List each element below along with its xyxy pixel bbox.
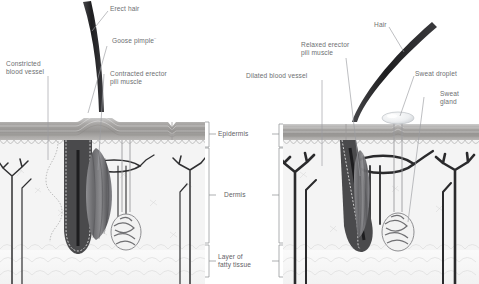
label-sweat-gland-line1: Sweat xyxy=(440,90,459,98)
bracket-dermis-right xyxy=(272,148,283,243)
leader-hair xyxy=(389,27,404,52)
label-goose-pimple: Goose pimple¨ xyxy=(112,37,156,45)
label-relaxed-erector-pili-muscle-line1: Relaxed erector xyxy=(301,41,349,49)
label-dilated-blood-vessel: Dilated blood vessel xyxy=(246,72,307,80)
bracket-fat-left xyxy=(205,245,216,277)
label-epidermis: Epidermis xyxy=(218,130,248,138)
label-constricted-blood-vessel-line1: Constricted xyxy=(6,60,41,68)
label-relaxed-erector-pili-muscle-line2: pili muscle xyxy=(301,49,333,57)
fatty-tissue-layer-right xyxy=(283,250,479,284)
bracket-epidermis-right xyxy=(272,124,283,147)
label-dermis: Dermis xyxy=(224,191,246,199)
diagram-canvas xyxy=(0,0,479,284)
fatty-tissue-layer xyxy=(0,250,205,284)
label-contracted-erector-pili-muscle-line2: pili muscle xyxy=(110,78,142,86)
label-layer-of-fatty-tissue-line1: Layer of xyxy=(218,253,243,261)
label-sweat-droplet: Sweat droplet xyxy=(415,70,457,78)
label-layer-of-fatty-tissue-line2: fatty tissue xyxy=(218,261,251,269)
bracket-dermis-left xyxy=(205,148,216,243)
sweat-droplet-shape xyxy=(382,112,414,124)
right-panel-skin xyxy=(279,120,479,284)
label-erect-hair: Erect hair xyxy=(110,5,139,13)
label-contracted-erector-pili-muscle-line1: Contracted erector xyxy=(110,70,167,78)
epidermis-layer-right xyxy=(283,120,479,140)
bracket-fat-right xyxy=(272,245,283,277)
left-panel-skin xyxy=(0,112,211,284)
layer-brackets xyxy=(205,122,283,277)
label-constricted-blood-vessel-line2: blood vessel xyxy=(6,68,44,76)
leader-sweat-droplet xyxy=(400,76,414,116)
label-hair: Hair xyxy=(374,21,387,29)
label-sweat-gland-line2: gland xyxy=(440,98,457,106)
skin-cross-section-figure: Erect hair Goose pimple¨ Contracted erec… xyxy=(0,0,479,284)
erect-hair-shaft xyxy=(83,1,104,112)
bracket-epidermis-left xyxy=(205,122,216,147)
